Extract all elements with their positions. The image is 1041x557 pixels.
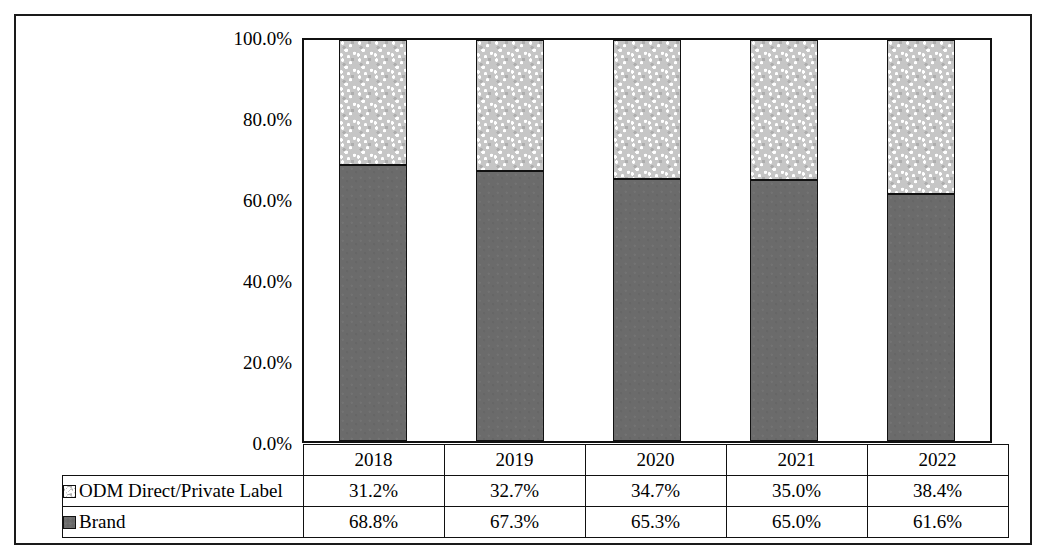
- data-table-wrapper: 20182019202020212022ODM Direct/Private L…: [62, 444, 1005, 534]
- table-value-cell: 34.7%: [585, 476, 726, 507]
- bar-group-2018: [304, 40, 441, 441]
- bar-segment-odm: [339, 40, 407, 165]
- bar-segment-odm: [750, 40, 818, 180]
- table-year-header-2022: 2022: [867, 445, 1008, 476]
- table-value-cell: 61.6%: [867, 507, 1008, 538]
- table-value-cell: 35.0%: [726, 476, 867, 507]
- table-year-header-2020: 2020: [585, 445, 726, 476]
- bar-segment-brand: [476, 171, 544, 441]
- table-value-cell: 67.3%: [444, 507, 585, 538]
- table-row: ODM Direct/Private Label31.2%32.7%34.7%3…: [63, 476, 1009, 507]
- bars-layer: [304, 40, 990, 441]
- bar-group-2022: [853, 40, 990, 441]
- legend-label-text: ODM Direct/Private Label: [79, 480, 283, 501]
- chart-figure: 100.0% 80.0% 60.0% 40.0% 20.0% 0.0% 2018…: [0, 0, 1041, 557]
- legend-odm-swatch-icon: [63, 485, 76, 498]
- bar-stack: [887, 40, 955, 441]
- table-row: Brand68.8%67.3%65.3%65.0%61.6%: [63, 507, 1009, 538]
- y-axis-tick-label: 20.0%: [180, 353, 292, 372]
- bar-group-2019: [441, 40, 578, 441]
- plot-area: [302, 38, 992, 443]
- table-series-label-cell: ODM Direct/Private Label: [63, 476, 304, 507]
- bar-segment-brand: [887, 194, 955, 441]
- y-axis: 100.0% 80.0% 60.0% 40.0% 20.0% 0.0%: [180, 38, 292, 443]
- legend-brand-swatch-icon: [63, 516, 76, 529]
- bar-stack: [476, 40, 544, 441]
- bar-segment-brand: [613, 179, 681, 441]
- table-year-header-2019: 2019: [444, 445, 585, 476]
- bar-stack: [750, 40, 818, 441]
- y-axis-tick-label: 80.0%: [180, 110, 292, 129]
- data-table: 20182019202020212022ODM Direct/Private L…: [62, 444, 1009, 538]
- table-year-header-2021: 2021: [726, 445, 867, 476]
- table-value-cell: 31.2%: [303, 476, 444, 507]
- legend-label-text: Brand: [79, 511, 125, 532]
- y-axis-tick-label: 60.0%: [180, 191, 292, 210]
- bar-stack: [613, 40, 681, 441]
- bar-segment-odm: [476, 40, 544, 171]
- table-value-cell: 65.0%: [726, 507, 867, 538]
- table-value-cell: 65.3%: [585, 507, 726, 538]
- y-axis-tick-label: 100.0%: [180, 29, 292, 48]
- table-year-header-2018: 2018: [303, 445, 444, 476]
- bar-segment-odm: [887, 40, 955, 194]
- y-axis-tick-label: 40.0%: [180, 272, 292, 291]
- bar-stack: [339, 40, 407, 441]
- table-header-row: 20182019202020212022: [63, 445, 1009, 476]
- bar-segment-brand: [750, 180, 818, 441]
- table-value-cell: 68.8%: [303, 507, 444, 538]
- table-value-cell: 38.4%: [867, 476, 1008, 507]
- bar-group-2021: [716, 40, 853, 441]
- bar-group-2020: [578, 40, 715, 441]
- bar-segment-odm: [613, 40, 681, 179]
- table-corner-cell: [63, 445, 304, 476]
- bar-segment-brand: [339, 165, 407, 441]
- table-series-label-cell: Brand: [63, 507, 304, 538]
- table-value-cell: 32.7%: [444, 476, 585, 507]
